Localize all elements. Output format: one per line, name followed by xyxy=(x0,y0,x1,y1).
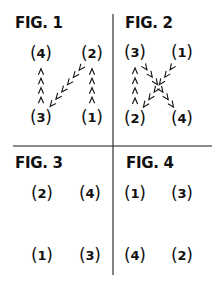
chevron-arrowhead-icon xyxy=(132,78,137,84)
paren-right: ) xyxy=(94,183,101,203)
fig-1-node-4: (4) xyxy=(30,43,52,65)
node-number: 3 xyxy=(177,186,186,201)
chevron-arrowhead-icon xyxy=(165,71,171,77)
paren-right: ) xyxy=(139,42,146,62)
fig-1-node-3: (3) xyxy=(30,107,52,129)
fig-3-node-2: (2) xyxy=(31,183,53,205)
paren-right: ) xyxy=(186,245,193,265)
paren-right: ) xyxy=(96,107,103,127)
chevron-arrowhead-icon xyxy=(89,88,94,94)
paren-right: ) xyxy=(139,245,146,265)
paren-right: ) xyxy=(186,108,193,128)
chevron-arrowhead-icon xyxy=(132,68,137,74)
chevron-arrowhead-icon xyxy=(38,78,43,84)
paren-left: ( xyxy=(79,245,86,265)
paren-left: ( xyxy=(124,183,131,203)
fig-1-arrow-3-to-4 xyxy=(38,69,43,104)
chevron-arrowhead-icon xyxy=(132,88,137,94)
node-number: 2 xyxy=(87,46,96,61)
chevron-arrowhead-icon xyxy=(168,101,174,107)
chevron-arrowhead-icon xyxy=(38,69,43,75)
node-number: 1 xyxy=(37,248,46,263)
chevron-arrowhead-icon xyxy=(159,78,165,84)
node-number: 2 xyxy=(37,186,46,201)
chevron-arrowhead-icon xyxy=(38,97,43,103)
paren-left: ( xyxy=(81,107,88,127)
fig-2-node-2: (2) xyxy=(124,108,146,130)
fig-3-label: FIG. 3 xyxy=(15,155,63,171)
chevron-arrowhead-icon xyxy=(149,93,155,99)
paren-left: ( xyxy=(31,183,38,203)
node-number: 1 xyxy=(130,186,139,201)
fig-2-label: FIG. 2 xyxy=(125,15,173,31)
fig-3-node-4: (4) xyxy=(79,183,101,205)
node-number: 2 xyxy=(177,248,186,263)
chevron-arrowhead-icon xyxy=(132,98,137,104)
paren-right: ) xyxy=(94,245,101,265)
fig-4-node-1: (1) xyxy=(124,183,146,205)
fig-1-node-1: (1) xyxy=(81,107,103,129)
node-number: 3 xyxy=(130,45,139,60)
fig-2-arrow-3-to-4 xyxy=(141,63,173,107)
fig-1-arrow-2-to-3 xyxy=(50,64,85,107)
node-number: 4 xyxy=(85,186,94,201)
chevron-arrowhead-icon xyxy=(89,78,94,84)
chevron-arrowhead-icon xyxy=(154,86,160,92)
arrow-layer xyxy=(38,63,175,107)
chevron-arrowhead-icon xyxy=(73,71,79,77)
fig-3-node-3: (3) xyxy=(79,245,101,267)
fig-2-arrow-1-to-2 xyxy=(143,63,175,107)
chevron-arrowhead-icon xyxy=(62,86,68,92)
fig-1-arrow-1-to-2 xyxy=(89,69,94,104)
paren-left: ( xyxy=(171,108,178,128)
chevron-arrowhead-icon xyxy=(50,100,56,106)
fig-4-node-4: (4) xyxy=(124,245,146,267)
paren-left: ( xyxy=(124,108,131,128)
paren-left: ( xyxy=(31,245,38,265)
fig-4-node-3: (3) xyxy=(171,183,193,205)
paren-right: ) xyxy=(96,43,103,63)
chevron-arrowhead-icon xyxy=(89,97,94,103)
fig-2-arrow-2-to-3 xyxy=(132,68,137,104)
paren-right: ) xyxy=(46,183,53,203)
chevron-arrowhead-icon xyxy=(152,78,158,84)
chevron-arrowhead-icon xyxy=(157,86,163,92)
paren-left: ( xyxy=(124,245,131,265)
chevron-arrowhead-icon xyxy=(38,88,43,94)
chevron-arrowhead-icon xyxy=(170,63,176,69)
chevron-arrowhead-icon xyxy=(163,93,169,99)
chevron-arrowhead-icon xyxy=(89,69,94,75)
paren-left: ( xyxy=(79,183,86,203)
paren-right: ) xyxy=(186,183,193,203)
fig-1-label: FIG. 1 xyxy=(15,15,63,31)
node-number: 4 xyxy=(177,111,186,126)
node-number: 4 xyxy=(36,46,45,61)
paren-left: ( xyxy=(171,183,178,203)
chevron-arrowhead-icon xyxy=(68,78,74,84)
chevron-arrowhead-icon xyxy=(143,101,149,107)
chevron-arrowhead-icon xyxy=(141,63,147,69)
fig-3-node-1: (1) xyxy=(31,245,53,267)
paren-left: ( xyxy=(171,42,178,62)
fig-2-node-4: (4) xyxy=(171,108,193,130)
paren-left: ( xyxy=(124,42,131,62)
chevron-arrowhead-icon xyxy=(56,93,62,99)
paren-right: ) xyxy=(186,42,193,62)
figure-sheet: FIG. 1 FIG. 2 FIG. 3 FIG. 4 (4)(2)(3)(1)… xyxy=(0,0,221,285)
node-number: 3 xyxy=(85,248,94,263)
node-number: 2 xyxy=(130,111,139,126)
node-number: 4 xyxy=(130,248,139,263)
chevron-arrowhead-icon xyxy=(147,71,153,77)
paren-left: ( xyxy=(30,43,37,63)
fig-1-node-2: (2) xyxy=(81,43,103,65)
paren-right: ) xyxy=(139,183,146,203)
paren-right: ) xyxy=(45,43,52,63)
node-number: 3 xyxy=(36,110,45,125)
fig-2-node-1: (1) xyxy=(171,42,193,64)
node-number: 1 xyxy=(87,110,96,125)
paren-right: ) xyxy=(45,107,52,127)
paren-left: ( xyxy=(30,107,37,127)
fig-4-label: FIG. 4 xyxy=(126,155,174,171)
paren-right: ) xyxy=(139,108,146,128)
node-number: 1 xyxy=(177,45,186,60)
